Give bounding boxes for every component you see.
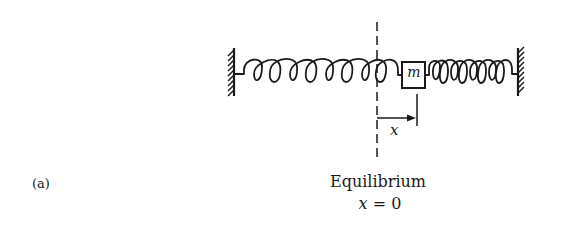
equilibrium-caption: Equilibrium [322, 172, 434, 191]
diagram-graphics [0, 0, 562, 226]
mass-label: m [404, 64, 424, 80]
equation-variable: x [359, 194, 368, 213]
left-wall-icon [228, 48, 234, 96]
equation-operator: = [368, 194, 392, 213]
displacement-label: x [390, 121, 398, 139]
displacement-symbol: x [390, 121, 398, 139]
right-wall-icon [518, 47, 524, 96]
part-label: (a) [32, 176, 50, 191]
spring-mass-diagram: m x (a) Equilibrium x = 0 [0, 0, 562, 226]
equation-value: 0 [391, 194, 401, 213]
equilibrium-equation: x = 0 [340, 194, 420, 213]
right-spring-icon [425, 60, 518, 83]
